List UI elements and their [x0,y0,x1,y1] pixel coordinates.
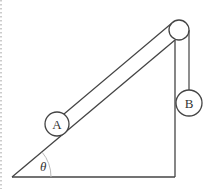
angle-label: θ [40,159,47,174]
block-b: B [176,90,202,116]
incline-slope [12,40,175,177]
block-a-label: A [52,117,62,132]
block-b-label: B [185,96,194,111]
pulley [169,20,189,40]
incline-pulley-diagram: θ A B [0,0,216,189]
inclined-plane [12,40,175,177]
block-a: A [45,112,69,136]
string-a-to-pulley [64,23,172,114]
